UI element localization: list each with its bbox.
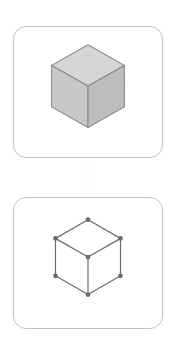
wireframe-edge-bottom-right — [88, 276, 121, 295]
solid-cube-panel[interactable]: Solid shaded cube — [13, 26, 163, 158]
vertex-upper-left — [53, 236, 58, 241]
panel-connector-dotted-line — [88, 157, 89, 198]
wireframe-cube-figure — [14, 198, 162, 328]
wireframe-edge-bottom-left — [56, 276, 89, 295]
diagram-root: Cube representations Solid shaded cube c… — [0, 0, 177, 353]
solid-cube-figure — [14, 27, 162, 157]
vertex-front-center — [86, 255, 91, 260]
vertex-lower-right — [118, 273, 123, 278]
solid-cube-group — [52, 45, 125, 128]
vertex-upper-right — [118, 236, 123, 241]
wireframe-top-face — [56, 220, 121, 257]
vertex-top-apex — [86, 217, 91, 222]
wireframe-cube-panel[interactable]: Wireframe cube with vertices — [13, 197, 163, 329]
vertex-lower-left — [53, 273, 58, 278]
vertex-bottom-front — [86, 292, 91, 297]
